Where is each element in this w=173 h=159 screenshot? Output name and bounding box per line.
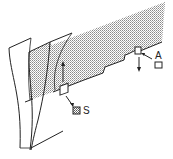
marker-a-block xyxy=(135,47,141,54)
front-panel-left-edge xyxy=(9,48,20,148)
legend-box-s xyxy=(73,107,80,114)
marker-a-leader-arrowhead xyxy=(141,53,145,56)
shaded-surface xyxy=(30,2,165,100)
down-arrow-icon xyxy=(137,67,141,72)
panel-bottom-edge xyxy=(31,131,63,148)
label-a: A xyxy=(155,51,162,61)
marker-s-leader-arrowhead xyxy=(70,103,74,107)
legend-box-a xyxy=(155,62,162,68)
diagram-canvas xyxy=(0,0,173,159)
label-s: S xyxy=(83,106,90,116)
front-panel-top xyxy=(9,38,31,48)
